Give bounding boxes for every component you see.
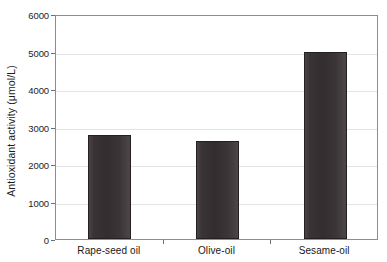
y-axis-tick-label: 1000: [19, 197, 49, 208]
x-axis-category-label: Sesame-oil: [299, 245, 350, 256]
bar-chart-figure: Antioxidant activity (μmol/L) 0100020003…: [0, 0, 387, 262]
y-axis-tick-label: 4000: [19, 85, 49, 96]
y-axis-tick-label: 0: [19, 235, 49, 246]
bar: [196, 141, 239, 239]
plot-area: [55, 15, 378, 240]
x-axis-category-label: Olive-oil: [198, 245, 235, 256]
bar: [304, 52, 347, 240]
x-axis-tick-mark: [163, 240, 164, 244]
y-axis-title: Antioxidant activity (μmol/L): [0, 0, 22, 262]
y-axis-tick-label: 2000: [19, 160, 49, 171]
x-axis-tick-mark: [270, 240, 271, 244]
y-axis-tick-label: 5000: [19, 47, 49, 58]
y-axis-tick-label: 3000: [19, 122, 49, 133]
y-axis-tick-label: 6000: [19, 10, 49, 21]
y-axis-tick-mark: [51, 240, 55, 241]
bar: [88, 135, 131, 239]
x-axis-category-label: Rape-seed oil: [77, 245, 140, 256]
